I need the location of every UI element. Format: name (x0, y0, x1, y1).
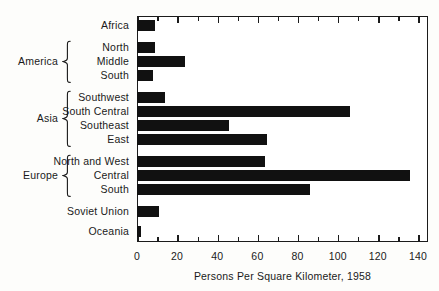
category-label: Africa (101, 20, 129, 31)
bar-series (137, 16, 428, 242)
x-tick-label: 140 (409, 250, 427, 262)
x-tick-label: 60 (251, 250, 263, 262)
category-label: Soviet Union (67, 206, 129, 217)
x-tick-label: 100 (329, 250, 347, 262)
x-tick-labels: 020406080100120140 (0, 250, 439, 264)
category-label: North (102, 42, 129, 53)
x-tick-label: 80 (292, 250, 304, 262)
bar (137, 70, 153, 81)
bar (137, 20, 155, 31)
category-label: East (107, 134, 129, 145)
bar (137, 56, 185, 67)
bar (137, 156, 265, 167)
category-label: Middle (97, 56, 129, 67)
x-tick-label: 120 (369, 250, 387, 262)
x-tick-label: 0 (134, 250, 140, 262)
group-brace (62, 40, 73, 84)
x-axis-title: Persons Per Square Kilometer, 1958 (137, 270, 428, 282)
group-label: Europe (0, 170, 58, 181)
group-label: Asia (0, 113, 58, 124)
bar (137, 184, 310, 195)
category-label: Southwest (78, 92, 129, 103)
bar (137, 206, 159, 217)
category-label: South (101, 70, 129, 81)
bar (137, 92, 165, 103)
category-label: Southeast (80, 120, 129, 131)
bar (137, 120, 229, 131)
category-label: South (101, 184, 129, 195)
category-label: Oceania (88, 226, 129, 237)
chart-figure: AfricaNorthMiddleSouthSouthwestSouth Cen… (0, 0, 439, 291)
x-tick-label: 40 (211, 250, 223, 262)
group-brace (62, 154, 73, 198)
bar (137, 106, 350, 117)
bar (137, 42, 155, 53)
bar (137, 170, 410, 181)
bar (137, 134, 267, 145)
group-label: America (0, 56, 58, 67)
category-label: Central (94, 170, 129, 181)
x-tick-label: 20 (171, 250, 183, 262)
bar (137, 226, 141, 237)
group-brace (62, 90, 73, 148)
